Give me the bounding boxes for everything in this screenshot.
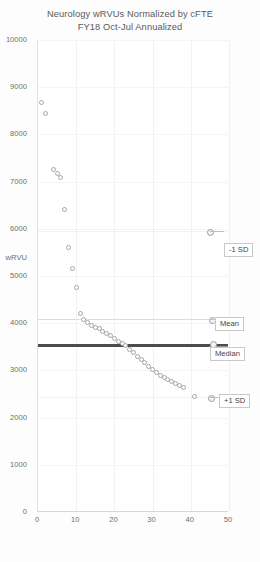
hgrid-5000 — [38, 276, 228, 277]
callout-anchor--1-sd — [207, 229, 214, 236]
data-point — [70, 266, 75, 271]
data-point — [58, 175, 63, 180]
callout-leader--1-sd — [210, 397, 219, 398]
data-point — [39, 100, 44, 105]
y-tick-4000: 4000 — [0, 318, 27, 327]
scatter-chart: Neurology wRVUs Normalized by cFTE FY18 … — [0, 0, 260, 562]
vgrid-10 — [76, 40, 77, 511]
chart-title-block: Neurology wRVUs Normalized by cFTE FY18 … — [0, 8, 260, 33]
hgrid-9000 — [38, 87, 228, 88]
refline--1-sd — [38, 397, 228, 398]
y-tick-5000: 5000 — [0, 271, 27, 280]
hgrid-8000 — [38, 134, 228, 135]
callout-leader--1-sd — [210, 231, 224, 232]
x-tick-0: 0 — [25, 515, 49, 524]
callout-label--1-sd: +1 SD — [219, 394, 250, 408]
chart-title: Neurology wRVUs Normalized by cFTE — [0, 8, 260, 21]
data-point — [181, 385, 186, 390]
y-tick-2000: 2000 — [0, 413, 27, 422]
x-tick-20: 20 — [101, 515, 125, 524]
vgrid-30 — [153, 40, 154, 511]
hgrid-2000 — [38, 418, 228, 419]
data-point — [62, 207, 67, 212]
data-point — [66, 245, 71, 250]
hgrid-7000 — [38, 182, 228, 183]
data-point — [74, 285, 79, 290]
data-point — [192, 394, 197, 399]
y-tick-3000: 3000 — [0, 365, 27, 374]
vgrid-40 — [191, 40, 192, 511]
chart-subtitle: FY18 Oct-Jul Annualized — [0, 21, 260, 34]
callout-label-median: Median — [210, 347, 245, 361]
y-tick-10000: 10000 — [0, 35, 27, 44]
x-tick-10: 10 — [63, 515, 87, 524]
hgrid-1000 — [38, 465, 228, 466]
y-tick-1000: 1000 — [0, 460, 27, 469]
hgrid-4000 — [38, 323, 228, 324]
hgrid-6000 — [38, 229, 228, 230]
x-tick-40: 40 — [178, 515, 202, 524]
refline-mean — [38, 319, 228, 320]
callout-anchor--1-sd — [208, 395, 215, 402]
data-point — [78, 311, 83, 316]
y-tick-8000: 8000 — [0, 129, 27, 138]
callout-label--1-sd: -1 SD — [224, 243, 253, 257]
hgrid-10000 — [38, 40, 228, 41]
callout-label-mean: Mean — [215, 317, 244, 331]
vgrid-20 — [114, 40, 115, 511]
y-tick-7000: 7000 — [0, 177, 27, 186]
vgrid-50 — [229, 40, 230, 511]
y-tick-9000: 9000 — [0, 82, 27, 91]
y-tick-6000: 6000 — [0, 224, 27, 233]
x-tick-30: 30 — [140, 515, 164, 524]
y-tick-0: 0 — [0, 507, 27, 516]
refline--1-sd — [38, 231, 228, 232]
y-axis-title: wRVU — [0, 253, 27, 262]
refline-median — [38, 344, 228, 347]
hgrid-3000 — [38, 370, 228, 371]
x-tick-50: 50 — [216, 515, 240, 524]
data-point — [43, 111, 48, 116]
plot-area — [37, 40, 228, 512]
